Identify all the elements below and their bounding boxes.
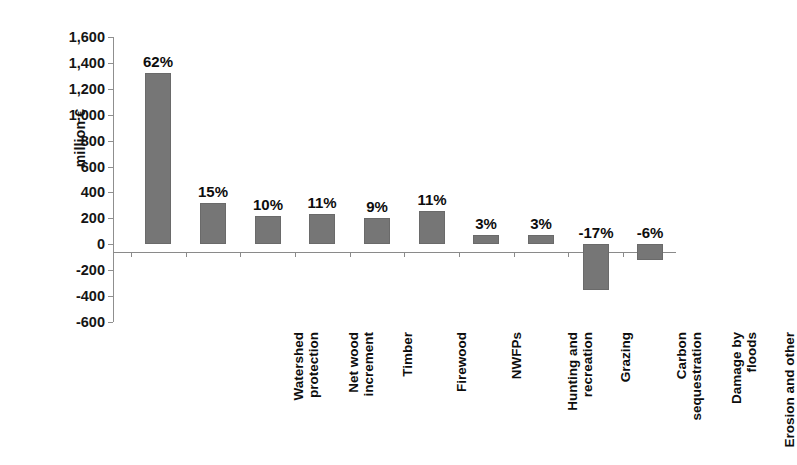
bar (145, 73, 171, 244)
x-axis-category-label: Net wood increment (346, 332, 376, 457)
bar (473, 235, 499, 244)
x-axis-category-label: Damage by floods (729, 332, 759, 457)
y-axis-tick-label: 0 (41, 237, 105, 252)
x-axis-tick (459, 252, 460, 257)
x-axis-tick (514, 252, 515, 257)
x-axis-tick (295, 252, 296, 257)
y-axis-tick-label: 1,000 (41, 108, 105, 123)
y-axis-tick-label: 600 (41, 160, 105, 175)
x-axis-tick (186, 252, 187, 257)
x-axis-category-label: Erosion and other (782, 332, 797, 457)
x-axis-category-label: Watershed protection (291, 332, 321, 457)
y-axis-tick (108, 270, 113, 271)
bar (255, 216, 281, 244)
bar (419, 211, 445, 244)
bar-value-label: 3% (456, 216, 516, 231)
bar (583, 244, 609, 289)
bar-value-label: 10% (238, 197, 298, 212)
bar (637, 244, 663, 260)
x-axis-tick (131, 252, 132, 257)
bar (200, 203, 226, 244)
y-axis-tick (108, 89, 113, 90)
y-axis-tick-label: 1,600 (41, 30, 105, 45)
y-axis-tick (108, 192, 113, 193)
bar-value-label: 15% (183, 184, 243, 199)
y-axis-tick-label: 400 (41, 185, 105, 200)
y-axis-tick-label: 800 (41, 134, 105, 149)
x-axis-category-label: Grazing (618, 332, 633, 457)
bar (364, 218, 390, 245)
x-axis-category-label: NWFPs (509, 332, 524, 457)
x-axis-category-label: Hunting and recreation (565, 332, 595, 457)
y-axis-tick (108, 218, 113, 219)
bar-value-label: -6% (620, 225, 680, 240)
bar-value-label: -17% (566, 225, 626, 240)
x-axis-category-label: Timber (400, 332, 415, 457)
y-axis-line (113, 37, 114, 322)
x-axis-category-label: Carbon sequestration (674, 332, 704, 457)
bar-value-label: 11% (402, 192, 462, 207)
y-axis-tick (108, 141, 113, 142)
bar-value-label: 62% (128, 54, 188, 69)
plot-area (113, 37, 676, 322)
y-axis-tick-label: 200 (41, 211, 105, 226)
x-axis-tick (623, 252, 624, 257)
bar-value-label: 11% (292, 195, 352, 210)
y-axis-tick (108, 296, 113, 297)
y-axis-tick (108, 167, 113, 168)
y-axis-tick-label: 1,400 (41, 56, 105, 71)
y-axis-tick (108, 63, 113, 64)
bar (309, 214, 335, 244)
x-axis-category-label: Firewood (454, 332, 469, 457)
y-axis-tick-label: 1,200 (41, 82, 105, 97)
bar-value-label: 3% (511, 216, 571, 231)
y-axis-tick (108, 322, 113, 323)
bar-value-label: 9% (347, 199, 407, 214)
x-axis-tick (350, 252, 351, 257)
x-axis-tick (404, 252, 405, 257)
y-axis-tick-label: -600 (41, 315, 105, 330)
y-axis-tick-label: -200 (41, 263, 105, 278)
bar (528, 235, 554, 244)
y-axis-tick-label: -400 (41, 289, 105, 304)
x-axis-tick (240, 252, 241, 257)
x-axis-tick (568, 252, 569, 257)
y-axis-tick (108, 244, 113, 245)
y-axis-tick (108, 37, 113, 38)
y-axis-tick (108, 115, 113, 116)
